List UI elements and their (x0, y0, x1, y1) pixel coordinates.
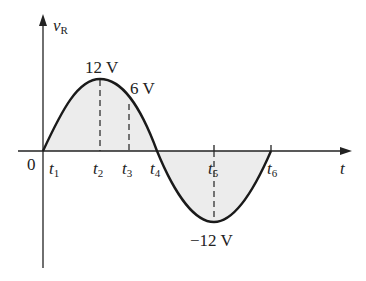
y-axis-arrow-icon (39, 14, 47, 26)
t2-label: t2 (93, 160, 103, 179)
x-axis-label: t (340, 160, 345, 177)
sine-waveform-diagram (0, 0, 366, 281)
peak-annotation: 12 V (85, 59, 118, 76)
t1-label: t1 (49, 160, 59, 179)
t5-label: t5 (208, 160, 218, 179)
t6-label: t6 (267, 160, 277, 179)
trough-annotation: −12 V (190, 232, 233, 249)
x-axis-arrow-icon (340, 147, 352, 155)
mid-annotation: 6 V (130, 80, 155, 97)
origin-label: 0 (27, 156, 36, 173)
t3-label: t3 (122, 160, 132, 179)
y-axis-label: vR (53, 17, 68, 36)
t4-label: t4 (150, 160, 160, 179)
